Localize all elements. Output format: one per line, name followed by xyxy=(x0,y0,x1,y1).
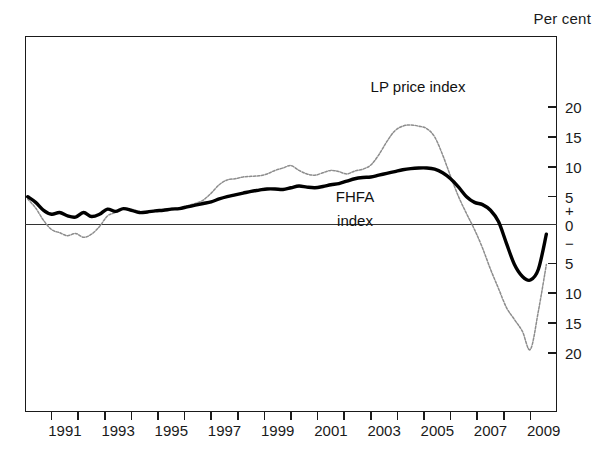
x-axis-tick-2000 xyxy=(290,412,292,420)
y-axis-label-plus15: 15 xyxy=(565,129,582,144)
x-axis-label-1995: 1995 xyxy=(155,423,188,438)
x-axis-tick-1997 xyxy=(210,412,212,420)
x-axis-tick-2008 xyxy=(503,412,505,420)
x-axis-tick-1991 xyxy=(51,412,53,420)
y-axis-tick-minus5 xyxy=(548,263,557,265)
x-axis-tick-1994 xyxy=(131,412,133,420)
y-axis-minus-sign: − xyxy=(565,236,574,251)
chart-root: Per cent 201510551015200+− 1991199319951… xyxy=(0,0,601,463)
y-axis-tick-minus15 xyxy=(548,322,557,324)
x-axis-label-2009: 2009 xyxy=(527,423,560,438)
x-axis-label-2005: 2005 xyxy=(421,423,454,438)
x-axis-tick-2001 xyxy=(317,412,319,420)
x-axis-tick-1995 xyxy=(157,412,159,420)
x-axis-tick-2003 xyxy=(370,412,372,420)
x-axis-tick-2006 xyxy=(450,412,452,420)
unit-label: Per cent xyxy=(534,10,591,27)
y-axis-tick-plus15 xyxy=(548,136,557,138)
y-axis-label-plus10: 10 xyxy=(565,159,582,174)
y-axis-tick-plus20 xyxy=(548,106,557,108)
y-axis-tick-minus20 xyxy=(548,352,557,354)
y-axis-label-zero: 0 xyxy=(565,218,573,233)
x-axis-tick-1996 xyxy=(184,412,186,420)
annotation-fhfa-index-line1: FHFA xyxy=(336,188,374,207)
x-axis-label-1999: 1999 xyxy=(261,423,294,438)
x-axis-tick-1993 xyxy=(104,412,106,420)
x-axis-label-2001: 2001 xyxy=(314,423,347,438)
x-axis-tick-2007 xyxy=(476,412,478,420)
x-axis-label-2007: 2007 xyxy=(474,423,507,438)
x-axis-tick-1992 xyxy=(77,412,79,420)
x-axis-tick-2004 xyxy=(397,412,399,420)
y-axis-tick-plus10 xyxy=(548,166,557,168)
y-axis-label-minus10: 10 xyxy=(565,286,582,301)
x-axis-tick-2009 xyxy=(530,412,532,420)
x-axis-tick-1998 xyxy=(237,412,239,420)
y-axis-plus-sign: + xyxy=(565,203,574,218)
y-axis-tick-minus10 xyxy=(548,292,557,294)
y-axis-label-plus20: 20 xyxy=(565,100,582,115)
x-axis-label-1993: 1993 xyxy=(101,423,134,438)
x-axis-tick-2002 xyxy=(343,412,345,420)
x-axis-label-1997: 1997 xyxy=(208,423,241,438)
x-axis-tick-1999 xyxy=(264,412,266,420)
annotation-lp-price-index: LP price index xyxy=(371,78,466,97)
x-axis-label-1991: 1991 xyxy=(48,423,81,438)
y-axis-label-minus20: 20 xyxy=(565,346,582,361)
zero-baseline xyxy=(25,224,557,225)
y-axis-label-minus15: 15 xyxy=(565,316,582,331)
y-axis-label-minus5: 5 xyxy=(565,256,573,271)
x-axis-label-2003: 2003 xyxy=(367,423,400,438)
x-axis-tick-2005 xyxy=(423,412,425,420)
annotation-fhfa-index-line2: index xyxy=(337,212,373,231)
y-axis-tick-plus5 xyxy=(548,196,557,198)
